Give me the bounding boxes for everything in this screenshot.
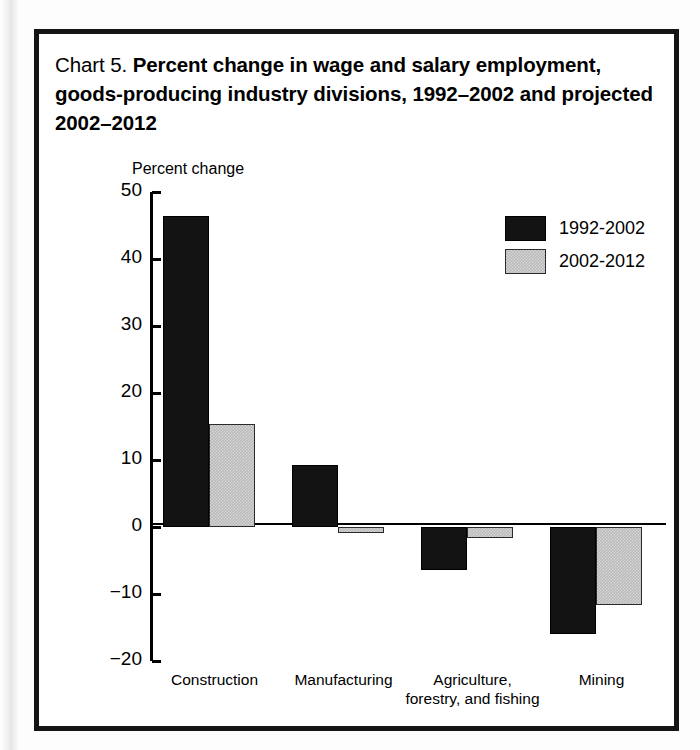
legend-item-1992-2002: 1992-2002 <box>505 212 645 245</box>
bar-mining-1992-2002 <box>550 527 596 634</box>
y-tick-label: 30 <box>80 313 142 335</box>
y-tick-label: 0 <box>80 514 142 536</box>
legend-item-2002-2012: 2002-2012 <box>505 245 645 278</box>
y-tick-label: 40 <box>80 246 142 268</box>
bar-construction-1992-2002 <box>163 216 209 527</box>
x-axis-category-labels: ConstructionManufacturingAgriculture,for… <box>150 670 670 726</box>
black-swatch-icon <box>505 216 546 241</box>
y-tick-label: 10 <box>80 447 142 469</box>
bar-agriculture-forestry-and-fishing-2002-2012 <box>467 527 513 538</box>
chart-frame: Chart 5. Percent change in wage and sala… <box>34 29 679 731</box>
y-axis-title: Percent change <box>132 160 244 178</box>
legend-label-1992-2002: 1992-2002 <box>559 218 645 239</box>
x-category-label-line: Mining <box>519 670 684 689</box>
bar-manufacturing-2002-2012 <box>338 527 384 533</box>
x-category-label-line: forestry, and fishing <box>390 689 555 708</box>
plot-area: Percent change 50403020100−10−20 Constru… <box>39 34 674 726</box>
chart-legend: 1992-2002 2002-2012 <box>505 212 645 278</box>
page-canvas: Chart 5. Percent change in wage and sala… <box>0 0 700 750</box>
y-tick-label: 50 <box>80 179 142 201</box>
bar-agriculture-forestry-and-fishing-1992-2002 <box>421 527 467 570</box>
bar-manufacturing-1992-2002 <box>292 465 338 527</box>
legend-label-2002-2012: 2002-2012 <box>559 251 645 272</box>
gray-swatch-icon <box>505 249 546 274</box>
bar-construction-2002-2012 <box>209 424 255 527</box>
y-tick-label: −10 <box>80 581 142 603</box>
x-category-label: Mining <box>519 670 684 689</box>
y-tick-label: 20 <box>80 380 142 402</box>
scan-edge-artifact <box>0 0 18 750</box>
y-tick-label: −20 <box>80 648 142 670</box>
bar-mining-2002-2012 <box>596 527 642 605</box>
